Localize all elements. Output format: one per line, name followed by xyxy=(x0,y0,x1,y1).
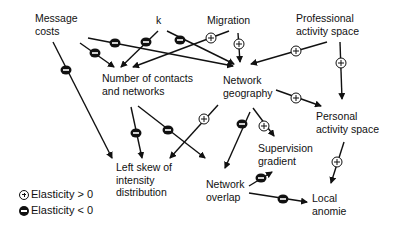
legend-positive: Elasticity > 0 xyxy=(19,188,93,201)
node-migration: Migration xyxy=(207,14,250,27)
node-supervision-gradient: Supervision gradient xyxy=(258,142,313,167)
legend-positive-label: Elasticity > 0 xyxy=(31,188,93,201)
legend-negative: Elasticity < 0 xyxy=(19,204,93,217)
node-number-of-contacts: Number of contacts and networks xyxy=(102,72,193,97)
node-left-skew: Left skew of intensity distribution xyxy=(116,161,172,199)
legend-negative-label: Elasticity < 0 xyxy=(31,204,93,217)
node-professional-activity-space: Professional activity space xyxy=(296,12,359,37)
minus-circle-icon xyxy=(19,206,29,216)
plus-circle-icon xyxy=(19,190,29,200)
node-k: k xyxy=(156,14,161,27)
causal-diagram: Message costs k Migration Professional a… xyxy=(0,0,402,228)
node-network-geography: Network geography xyxy=(223,74,273,99)
node-personal-activity-space: Personal activity space xyxy=(316,110,379,135)
node-local-anomie: Local anomie xyxy=(312,192,346,217)
node-network-overlap: Network overlap xyxy=(206,178,245,203)
node-message-costs: Message costs xyxy=(35,12,78,37)
